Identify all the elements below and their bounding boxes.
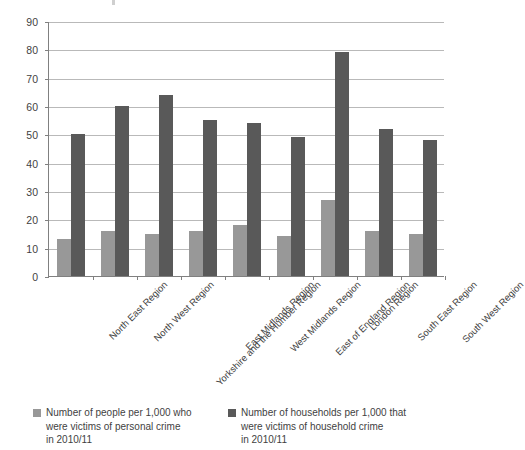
legend-label-household-crime: Number of households per 1,000 that were… (241, 406, 406, 447)
bar-household-crime (203, 120, 217, 276)
bar-group (137, 22, 181, 276)
legend-swatch-light-icon (33, 409, 41, 417)
y-tick-label: 40 (26, 159, 38, 169)
plot-wrapper: 0102030405060708090 North East RegionNor… (0, 0, 454, 290)
bar-personal-crime (101, 231, 115, 276)
y-axis-tick-labels: 0102030405060708090 (0, 22, 44, 277)
legend-label-personal-crime: Number of people per 1,000 who were vict… (46, 406, 192, 447)
bar-personal-crime (321, 200, 335, 277)
bar-household-crime (159, 95, 173, 276)
bar-personal-crime (189, 231, 203, 276)
bar-household-crime (291, 137, 305, 276)
bar-group (225, 22, 269, 276)
bar-group (269, 22, 313, 276)
legend-item-personal-crime: Number of people per 1,000 who were vict… (33, 406, 223, 447)
bar-group (93, 22, 137, 276)
bar-group (401, 22, 445, 276)
x-tick-label: London Region (367, 279, 420, 332)
bar-household-crime (423, 140, 437, 276)
y-tick-label: 60 (26, 102, 38, 112)
legend-line-2: were victims of household crime (241, 420, 406, 434)
bar-group (181, 22, 225, 276)
chart-legend: Number of people per 1,000 who were vict… (0, 406, 454, 450)
y-tick-mark (45, 277, 49, 278)
legend-line-3: in 2010/11 (241, 433, 406, 447)
y-tick-label: 10 (26, 244, 38, 254)
y-tick-label: 20 (26, 215, 38, 225)
y-tick-label: 50 (26, 130, 38, 140)
legend-line-3: in 2010/11 (46, 433, 192, 447)
y-tick-label: 30 (26, 187, 38, 197)
legend-swatch-dark-icon (228, 409, 236, 417)
y-tick-label: 90 (26, 17, 38, 27)
bars-layer (49, 22, 444, 276)
y-tick-label: 70 (26, 74, 38, 84)
bar-household-crime (335, 52, 349, 276)
bar-personal-crime (365, 231, 379, 276)
bar-household-crime (115, 106, 129, 276)
legend-item-household-crime: Number of households per 1,000 that were… (228, 406, 443, 447)
bar-household-crime (379, 129, 393, 276)
y-tick-label: 80 (26, 45, 38, 55)
bar-personal-crime (145, 234, 159, 277)
bar-group (357, 22, 401, 276)
legend-line-1: Number of households per 1,000 that (241, 406, 406, 420)
bar-personal-crime (57, 239, 71, 276)
x-axis-tick-labels: North East RegionNorth West RegionYorksh… (0, 279, 454, 399)
bar-personal-crime (277, 236, 291, 276)
bar-personal-crime (409, 234, 423, 277)
plot-area (48, 22, 444, 277)
legend-line-1: Number of people per 1,000 who (46, 406, 192, 420)
bar-group (313, 22, 357, 276)
bar-group (49, 22, 93, 276)
legend-line-2: were victims of personal crime (46, 420, 192, 434)
bar-household-crime (247, 123, 261, 276)
bar-household-crime (71, 134, 85, 276)
bar-personal-crime (233, 225, 247, 276)
